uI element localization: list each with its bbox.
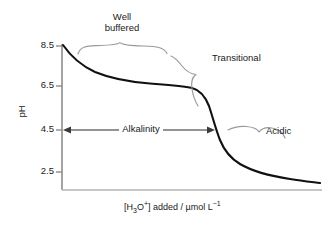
titration-curve [63,45,320,183]
x-axis-title-open: [H [124,202,133,212]
transitional-brace [171,56,198,106]
alkalinity-arrowhead-left [63,127,71,134]
x-axis-title: [H3O+] added / µmol L−1 [124,200,221,215]
ph-titration-chart: 8.5 6.5 4.5 2.5 pH Well buffered Transit… [0,0,335,228]
y-axis-title: pH [17,98,28,124]
y-tick-label-2-5: 2.5 [28,166,54,177]
x-axis-title-o: O [137,202,144,212]
annotation-acidic: Acidic [266,126,291,137]
x-axis-title-rest: ] added / µmol L [148,202,213,212]
annotation-transitional: Transitional [212,53,261,64]
annotation-well-buffered: Well buffered [92,12,152,34]
y-tick-label-8-5: 8.5 [28,40,54,51]
annotation-alkalinity: Alkalinity [119,124,163,135]
x-axis-title-exponent: −1 [213,200,221,207]
alkalinity-arrowhead-right [207,127,215,134]
y-tick-label-6-5: 6.5 [28,80,54,91]
y-tick-label-4-5: 4.5 [28,124,54,135]
annotation-well-buffered-line2: buffered [92,23,152,34]
chart-canvas [0,0,335,228]
well-buffered-brace [78,43,167,54]
